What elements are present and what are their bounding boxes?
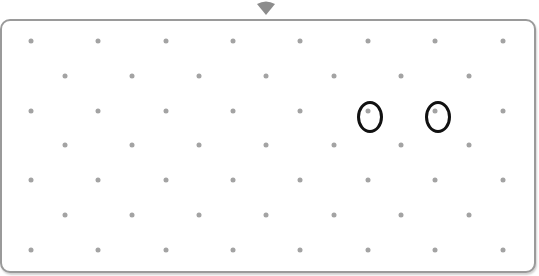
grid-dot[interactable]	[29, 248, 34, 253]
grid-dot[interactable]	[129, 213, 134, 218]
grid-dot[interactable]	[230, 108, 235, 113]
grid-dot[interactable]	[433, 39, 438, 44]
grid-dot[interactable]	[264, 213, 269, 218]
grid-dot[interactable]	[500, 178, 505, 183]
grid-dot[interactable]	[230, 178, 235, 183]
grid-dot[interactable]	[96, 108, 101, 113]
grid-dot[interactable]	[29, 39, 34, 44]
grid-dot[interactable]	[399, 73, 404, 78]
grid-dot[interactable]	[264, 143, 269, 148]
grid-dot[interactable]	[331, 213, 336, 218]
grid-dot[interactable]	[331, 73, 336, 78]
grid-dot[interactable]	[96, 178, 101, 183]
grid-dot[interactable]	[264, 73, 269, 78]
grid-dot[interactable]	[62, 213, 67, 218]
grid-dot[interactable]	[163, 108, 168, 113]
grid-dot[interactable]	[365, 248, 370, 253]
grid-dot[interactable]	[197, 143, 202, 148]
grid-dot[interactable]	[466, 143, 471, 148]
grid-dot[interactable]	[230, 39, 235, 44]
grid-dot[interactable]	[163, 39, 168, 44]
grid-dot[interactable]	[129, 143, 134, 148]
selection-ring-icon	[357, 101, 383, 133]
grid-dot[interactable]	[197, 213, 202, 218]
grid-dot[interactable]	[197, 73, 202, 78]
grid-dot[interactable]	[500, 108, 505, 113]
grid-dot[interactable]	[331, 143, 336, 148]
grid-dot[interactable]	[29, 178, 34, 183]
grid-dot[interactable]	[500, 248, 505, 253]
grid-dot[interactable]	[399, 213, 404, 218]
grid-dot[interactable]	[163, 178, 168, 183]
grid-dot[interactable]	[466, 73, 471, 78]
grid-dot[interactable]	[230, 248, 235, 253]
grid-dot[interactable]	[129, 73, 134, 78]
grid-dot[interactable]	[298, 108, 303, 113]
grid-dot[interactable]	[466, 213, 471, 218]
grid-dot[interactable]	[433, 178, 438, 183]
grid-dot[interactable]	[62, 73, 67, 78]
grid-dot[interactable]	[96, 248, 101, 253]
grid-dot[interactable]	[433, 248, 438, 253]
selection-ring-icon	[425, 101, 451, 133]
grid-dot[interactable]	[298, 39, 303, 44]
grid-dot[interactable]	[96, 39, 101, 44]
grid-dot[interactable]	[365, 39, 370, 44]
grid-dot[interactable]	[298, 178, 303, 183]
grid-dot[interactable]	[500, 39, 505, 44]
grid-dot[interactable]	[62, 143, 67, 148]
grid-dot[interactable]	[163, 248, 168, 253]
pointer-marker-icon	[255, 0, 277, 16]
grid-dot[interactable]	[29, 108, 34, 113]
grid-dot[interactable]	[399, 143, 404, 148]
grid-dot[interactable]	[365, 178, 370, 183]
grid-dot[interactable]	[298, 248, 303, 253]
